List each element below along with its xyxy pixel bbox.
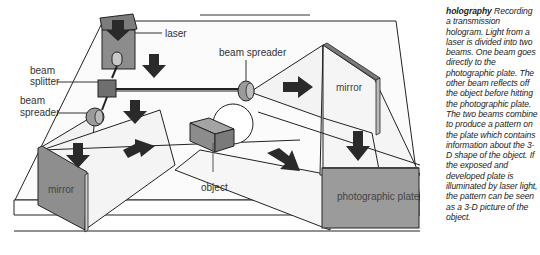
label-object: object (201, 182, 228, 193)
label-beam-splitter-2: splitter (30, 76, 60, 87)
beam-spreader-left (86, 108, 104, 126)
label-photographic-plate: photographic plate (337, 191, 420, 202)
caption-term: holography (446, 6, 492, 16)
label-beam-spreader-left-1: beam (20, 95, 45, 106)
beam-spreader-top (238, 81, 254, 101)
label-laser: laser (165, 28, 187, 39)
caption-text: Recording a transmission hologram. Light… (446, 6, 538, 222)
label-beam-spreader-top: beam spreader (219, 47, 287, 58)
label-beam-spreader-left-2: spreader (20, 107, 60, 118)
caption: holography Recording a transmission holo… (446, 6, 538, 222)
laser (100, 14, 137, 78)
label-mirror-left: mirror (48, 184, 75, 195)
label-beam-splitter-1: beam (30, 65, 55, 76)
holography-diagram: laser beam splitter beam spreader beam s… (0, 0, 420, 255)
label-mirror-right: mirror (336, 82, 363, 93)
